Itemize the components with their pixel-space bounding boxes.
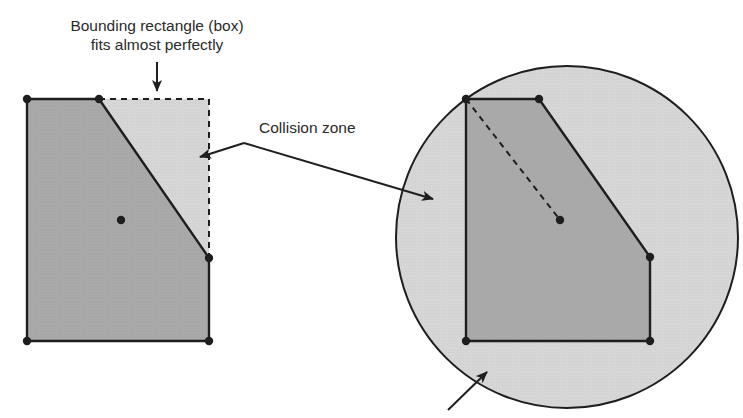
collision-zone-arrow-right [244,143,433,199]
diagram-canvas [0,0,743,418]
bounding-box-label-line2: fits almost perfectly [57,35,257,54]
right-figure [396,66,738,408]
left-figure [23,95,213,345]
circle-pointer-arrow [448,372,487,410]
right-center-dot [556,216,564,224]
left-center-dot [117,216,125,224]
collision-zone-label: Collision zone [259,118,356,137]
bounding-box-label: Bounding rectangle (box) fits almost per… [57,16,257,54]
bounding-box-label-line1: Bounding rectangle (box) [57,16,257,35]
